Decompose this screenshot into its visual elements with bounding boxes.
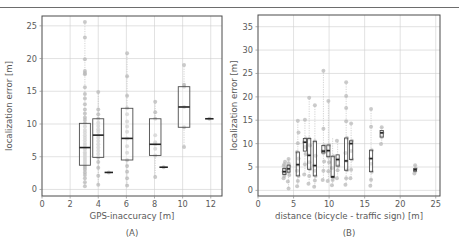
scatter-points [282,69,418,191]
panel-a-boxplot: 0246810120510152025GPS-inaccuracy [m]loc… [0,0,230,252]
scatter-point [343,183,347,187]
box-iqr [79,123,90,165]
ytick-label: 30 [243,45,253,55]
scatter-point [283,160,287,164]
xtick-label: 8 [152,199,157,209]
gridlines [42,16,222,196]
box-iqr [313,141,316,176]
box-iqr [331,156,334,177]
scatter-point [297,130,301,134]
ytick-label: 5 [248,162,253,172]
scatter-point [295,184,299,188]
ytick-label: 15 [27,86,37,96]
ytick-label: 5 [32,152,37,162]
scatter-point [306,182,310,186]
x-axis-label: distance (bicycle - traffic sign) [m] [275,211,423,221]
scatter-point [330,183,334,187]
ytick-label: 10 [243,139,253,149]
xtick-label: 0 [39,199,44,209]
scatter-point [326,179,330,183]
y-axis-label: localization error [m] [4,61,14,151]
scatter-point [348,176,352,180]
xtick-label: 25 [431,199,441,209]
ytick-label: 25 [243,68,253,78]
panel-caption: (A) [126,228,139,238]
scatter-points [83,20,211,188]
xtick-label: 20 [395,199,405,209]
ytick-label: 15 [243,115,253,125]
ytick-label: 20 [27,54,37,64]
ytick-label: 0 [32,184,37,194]
box-iqr [336,155,339,166]
box-iqr [121,108,133,160]
box-iqr [369,150,372,172]
box-iqr [308,138,311,169]
box-iqr [380,131,383,138]
scatter-point [321,178,325,182]
ytick-label: 25 [27,21,37,31]
scatter-point [335,139,339,143]
panel-b-boxplot: 051015202505101520253035distance (bicycl… [229,0,459,252]
box-iqr [149,119,161,156]
xtick-label: 12 [206,199,216,209]
ytick-label: 10 [27,119,37,129]
panel-b-svg: 051015202505101520253035distance (bicycl… [229,0,459,252]
y-axis-label: localization error [m] [229,61,239,151]
scatter-point [335,176,339,180]
ytick-label: 35 [243,22,253,32]
xtick-label: 0 [255,199,260,209]
x-axis-label: GPS-inaccuracy [m] [90,211,175,221]
xtick-label: 5 [291,199,296,209]
scatter-point [302,172,306,176]
scatter-point [322,159,326,163]
ytick-label: 20 [243,92,253,102]
axes-frame [42,16,222,196]
ytick-label: 0 [248,185,253,195]
figure-container: 0246810120510152025GPS-inaccuracy [m]loc… [0,0,459,252]
box-iqr [303,138,306,151]
xtick-label: 10 [177,199,187,209]
xtick-label: 10 [324,199,334,209]
xtick-label: 4 [96,199,101,209]
xtick-label: 2 [68,199,73,209]
scatter-point [368,184,372,188]
box-iqr [93,119,104,158]
scatter-point [327,160,331,164]
scatter-point [312,185,316,189]
panel-a-svg: 0246810120510152025GPS-inaccuracy [m]loc… [0,0,230,252]
xtick-label: 6 [124,199,129,209]
panel-caption: (B) [343,228,356,238]
xtick-label: 15 [359,199,369,209]
scatter-point [286,180,290,184]
scatter-point [379,142,383,146]
box-iqr [345,138,348,170]
